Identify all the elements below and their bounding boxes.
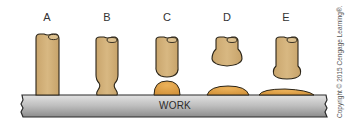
stage-label-a: A (37, 11, 57, 23)
electrode-a (36, 34, 59, 95)
weld-puddle-d (207, 86, 249, 95)
electrode-e (273, 37, 300, 79)
stage-label-b: B (97, 11, 117, 23)
copyright-notice: Copyright © 2015 Cengage Learning®. (336, 5, 343, 118)
stage-label-e: E (276, 11, 296, 23)
molten-drop-c (154, 81, 180, 95)
electrode-b (96, 37, 118, 95)
stage-label-c: C (157, 11, 177, 23)
electrode-d (212, 37, 242, 66)
weld-bead-e (259, 89, 314, 95)
metal-transfer-diagram: A B C D E WORK Copyright © 2015 Cengage … (0, 0, 354, 131)
stage-label-d: D (217, 11, 237, 23)
electrode-c (156, 37, 178, 77)
work-label: WORK (155, 100, 195, 111)
